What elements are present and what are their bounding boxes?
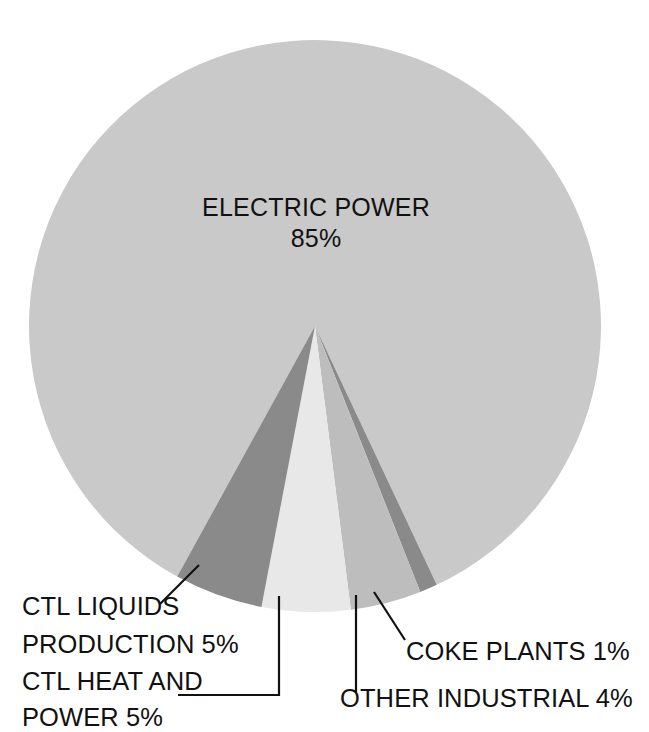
callout-label-ctl-liquids-line2: PRODUCTION 5% (22, 630, 239, 658)
callout-label-ctl-heat-line2: POWER 5% (22, 703, 163, 731)
callout-label-ctl-liquids-line1: CTL LIQUIDS (22, 592, 179, 620)
callout-label-coke-plants: COKE PLANTS 1% (406, 637, 630, 665)
callout-label-ctl-heat-line1: CTL HEAT AND (22, 667, 203, 695)
callout-label-other-industrial: OTHER INDUSTRIAL 4% (340, 684, 633, 712)
pie-chart-canvas: ELECTRIC POWER 85% CTL LIQUIDS PRODUCTIO… (0, 0, 649, 732)
slice-value-electric-power: 85% (291, 224, 342, 252)
slice-label-electric-power: ELECTRIC POWER (202, 193, 430, 221)
pie-chart: ELECTRIC POWER 85% CTL LIQUIDS PRODUCTIO… (0, 0, 649, 732)
